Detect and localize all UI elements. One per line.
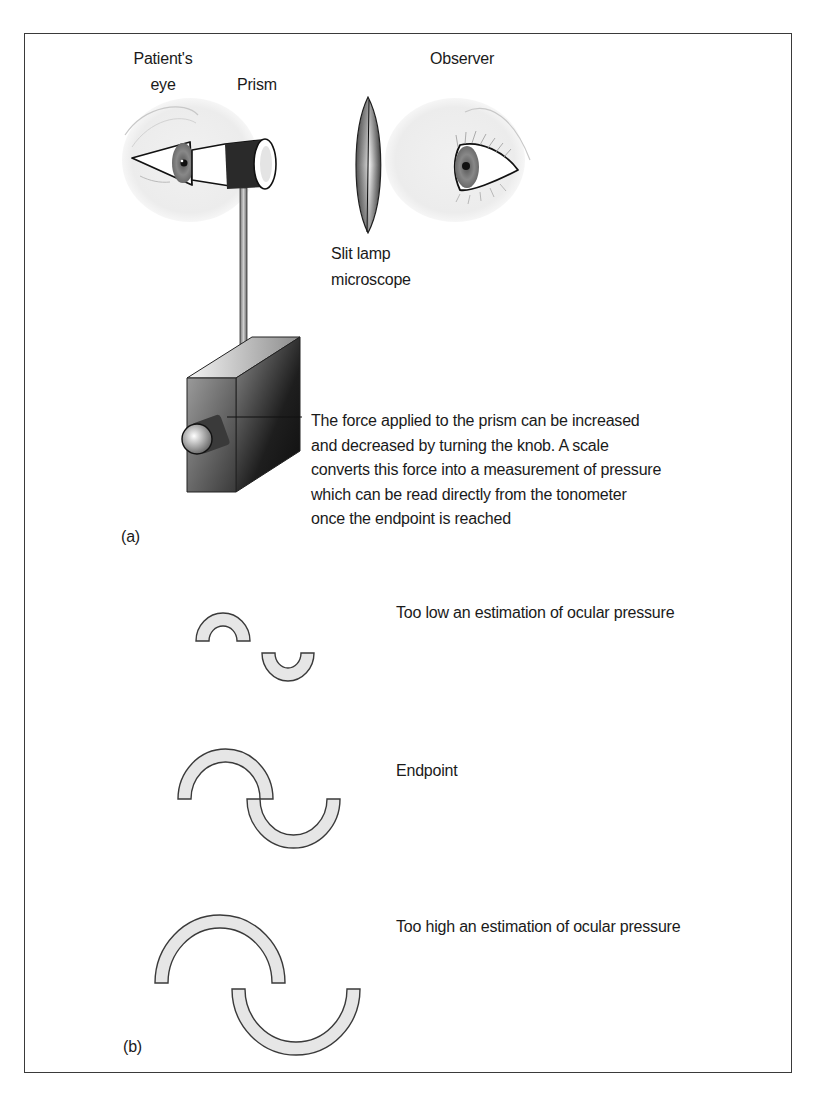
label-prism: Prism <box>237 75 277 95</box>
observer-eye <box>385 98 530 222</box>
description-line: The force applied to the prism can be in… <box>311 409 711 434</box>
description-line: converts this force into a measurement o… <box>311 458 711 483</box>
mire-too-low <box>196 613 314 681</box>
tonometer-illustration <box>0 0 821 1110</box>
description-line: and decreased by turning the knob. A sca… <box>311 434 711 459</box>
tonometer-description: The force applied to the prism can be in… <box>311 409 711 532</box>
caption-too-high: Too high an estimation of ocular pressur… <box>396 917 680 937</box>
label-observer: Observer <box>430 49 494 69</box>
tonometer-rod <box>240 188 247 348</box>
caption-endpoint: Endpoint <box>396 761 458 781</box>
panel-b-label: (b) <box>123 1037 142 1057</box>
label-slit-lamp-line1: Slit lamp <box>331 244 391 264</box>
slit-lamp-lens <box>356 97 381 233</box>
label-patient-eye-line1: Patient's <box>118 49 208 69</box>
mire-too-high <box>155 915 360 1055</box>
description-line: which can be read directly from the tono… <box>311 483 711 508</box>
panel-a-label: (a) <box>121 527 140 547</box>
mire-endpoint <box>178 749 340 848</box>
tonometer-box <box>187 337 302 492</box>
description-line: once the endpoint is reached <box>311 507 711 532</box>
label-patient-eye-line2: eye <box>118 75 208 95</box>
caption-too-low: Too low an estimation of ocular pressure <box>396 603 674 623</box>
label-slit-lamp-line2: microscope <box>331 270 411 290</box>
